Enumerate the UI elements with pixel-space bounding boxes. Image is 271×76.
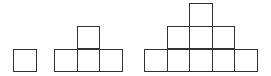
unit-square: [189, 49, 213, 73]
unit-square: [167, 49, 191, 73]
unit-square: [54, 49, 78, 73]
unit-square: [189, 3, 213, 27]
unit-square: [212, 49, 236, 73]
square-pattern-diagram: [0, 0, 271, 76]
unit-square: [77, 26, 101, 50]
unit-square: [234, 49, 258, 73]
unit-square: [189, 26, 213, 50]
unit-square: [144, 49, 168, 73]
unit-square: [13, 49, 37, 73]
unit-square: [167, 26, 191, 50]
unit-square: [212, 26, 236, 50]
unit-square: [77, 49, 101, 73]
unit-square: [99, 49, 123, 73]
